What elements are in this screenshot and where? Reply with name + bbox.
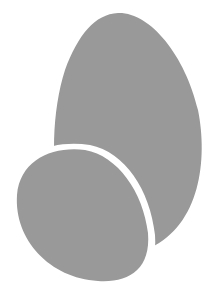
eggs-graphic bbox=[0, 0, 215, 292]
small-egg bbox=[17, 149, 148, 281]
